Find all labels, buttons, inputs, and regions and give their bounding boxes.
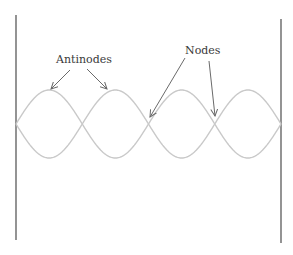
annotation-arrows xyxy=(51,58,215,117)
antinodes-label: Antinodes xyxy=(56,54,112,65)
diagram-canvas xyxy=(0,0,293,255)
node-arrow-2-icon xyxy=(209,61,215,116)
standing-wave-diagram: Antinodes Nodes xyxy=(0,0,293,255)
nodes-label: Nodes xyxy=(185,45,220,56)
antinode-arrow-2-icon xyxy=(87,69,107,89)
antinode-arrow-1-icon xyxy=(51,70,70,89)
wave-lower-envelope xyxy=(16,90,281,158)
node-arrow-1-icon xyxy=(150,58,185,117)
